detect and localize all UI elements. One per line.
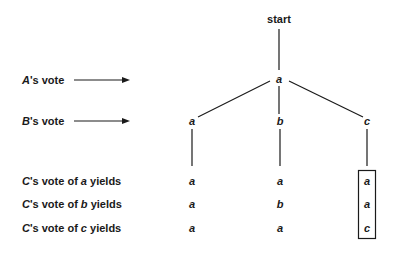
outcome-cell: a: [189, 222, 195, 234]
voter-name: C: [22, 222, 30, 234]
b-vote-label: B's vote: [22, 115, 64, 127]
c-vote-b-label: C's vote of b yields: [22, 198, 122, 210]
arrow-b-head: [122, 118, 130, 124]
outcome-cell: a: [364, 198, 370, 210]
b-vote-node-a: a: [189, 115, 195, 127]
edge-a-to-c: [289, 81, 363, 117]
voter-name: A: [22, 74, 30, 86]
label-text: yields: [87, 175, 121, 187]
arrow-a-head: [122, 77, 130, 83]
label-text: 's vote of: [30, 198, 81, 210]
label-text: 's vote of: [30, 175, 81, 187]
voting-tree-diagram: start A's vote B's vote C's vote of a yi…: [0, 0, 395, 253]
a-vote-label: A's vote: [22, 74, 64, 86]
outcome-cell: a: [189, 175, 195, 187]
a-vote-node: a: [276, 73, 282, 85]
outcome-cell: a: [189, 198, 195, 210]
voter-name: C: [22, 175, 30, 187]
voter-name: B: [22, 115, 30, 127]
label-text: yields: [88, 198, 122, 210]
outcome-cell: a: [277, 175, 283, 187]
label-text: 's vote of: [30, 222, 81, 234]
label-text: 's vote: [30, 115, 64, 127]
outcome-cell: a: [364, 175, 370, 187]
outcome-cell: c: [364, 222, 370, 234]
c-vote-c-label: C's vote of c yields: [22, 222, 121, 234]
start-node: start: [267, 13, 291, 25]
voter-name: C: [22, 198, 30, 210]
c-vote-a-label: C's vote of a yields: [22, 175, 121, 187]
b-vote-node-c: c: [364, 115, 370, 127]
edge-a-to-a: [198, 81, 270, 117]
b-vote-node-b: b: [277, 115, 284, 127]
choice: b: [81, 198, 88, 210]
outcome-cell: a: [277, 222, 283, 234]
label-text: 's vote: [30, 74, 64, 86]
label-text: yields: [87, 222, 121, 234]
outcome-cell: b: [277, 198, 284, 210]
